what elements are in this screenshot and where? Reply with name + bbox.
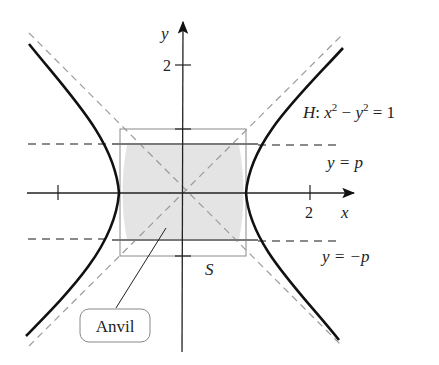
hyperbola-left-branch (26, 44, 119, 336)
hyperbola-equation-label: H: x2 − y2 = 1 (302, 101, 395, 122)
y-tick-label: 2 (163, 57, 171, 74)
y-axis (182, 22, 183, 352)
hyperbola-diagram: y 2 2 x H: x2 − y2 = 1 y = p y = −p S An… (0, 0, 439, 365)
x-axis-label: x (340, 203, 349, 222)
square-s-label: S (205, 260, 214, 279)
hyperbola-right-branch (246, 48, 343, 340)
y-axis-label: y (159, 24, 169, 43)
x-tick-label: 2 (305, 204, 313, 221)
line-y-neg-p-label: y = −p (320, 247, 370, 266)
line-y-p-label: y = p (325, 153, 363, 172)
anvil-callout-label: Anvil (96, 317, 135, 336)
